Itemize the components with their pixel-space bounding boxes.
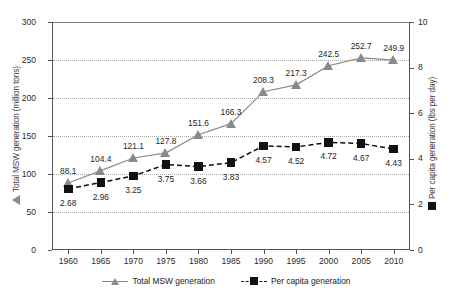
y-axis-left-tick-label: 150 <box>6 131 36 141</box>
x-axis-tick <box>394 250 395 254</box>
gridline <box>53 212 409 213</box>
x-axis-tick <box>361 250 362 254</box>
x-axis-tick <box>68 250 69 254</box>
y-axis-right-tick <box>410 68 414 69</box>
y-axis-left-tick <box>48 174 52 175</box>
y-axis-right-tick <box>410 113 414 114</box>
y-axis-right-tick-label: 10 <box>418 17 442 27</box>
x-axis-tick-label: 2010 <box>374 256 414 266</box>
x-axis-tick <box>166 250 167 254</box>
y-axis-left-tick-label: 300 <box>6 17 36 27</box>
plot-area <box>52 22 410 250</box>
legend-label-percapita: Per capita generation <box>271 276 351 286</box>
y-axis-left-tick-label: 100 <box>6 169 36 179</box>
y-axis-right-tick <box>410 159 414 160</box>
square-marker-icon <box>250 277 258 285</box>
gridline <box>53 174 409 175</box>
y-axis-left-tick-label: 250 <box>6 55 36 65</box>
triangle-marker-icon <box>12 195 20 205</box>
y-axis-right-tick <box>410 250 414 251</box>
y-axis-left-tick <box>48 250 52 251</box>
legend-item-total-msw-generation[interactable]: Total MSW generation <box>102 276 214 286</box>
y-axis-left-tick <box>48 98 52 99</box>
y-axis-right-tick-label: 8 <box>418 62 442 72</box>
chart-legend: Total MSW generation Per capita generati… <box>0 276 453 286</box>
y-axis-left-tick <box>48 136 52 137</box>
legend-swatch-percapita <box>241 276 267 286</box>
gridline <box>53 60 409 61</box>
y-axis-right-tick-label: 6 <box>418 108 442 118</box>
x-axis-tick <box>198 250 199 254</box>
legend-swatch-total <box>102 276 128 286</box>
legend-item-per-capita-generation[interactable]: Per capita generation <box>241 276 351 286</box>
legend-label-total: Total MSW generation <box>132 276 214 286</box>
triangle-marker-icon <box>111 278 119 285</box>
gridline <box>53 136 409 137</box>
y-axis-left-tick <box>48 22 52 23</box>
x-axis-tick <box>329 250 330 254</box>
y-axis-left-tick <box>48 60 52 61</box>
y-axis-right-tick <box>410 22 414 23</box>
y-axis-left-tick <box>48 212 52 213</box>
y-axis-left-tick-label: 0 <box>6 245 36 255</box>
x-axis-tick <box>264 250 265 254</box>
y-axis-left-tick-label: 50 <box>6 207 36 217</box>
x-axis-tick <box>133 250 134 254</box>
chart-container: Total MSW generation (million tons) Per … <box>0 0 453 298</box>
y-axis-right-tick-label: 2 <box>418 199 442 209</box>
y-axis-left-tick-label: 200 <box>6 93 36 103</box>
gridline <box>53 98 409 99</box>
x-axis-tick <box>296 250 297 254</box>
x-axis-tick <box>231 250 232 254</box>
plot-top-rule <box>53 22 409 23</box>
x-axis-tick <box>101 250 102 254</box>
right-axis-title-text: Per capita generation (lbs per day) <box>428 77 437 199</box>
y-axis-right-tick-label: 0 <box>418 245 442 255</box>
y-axis-right-tick <box>410 204 414 205</box>
y-axis-right-tick-label: 4 <box>418 153 442 163</box>
